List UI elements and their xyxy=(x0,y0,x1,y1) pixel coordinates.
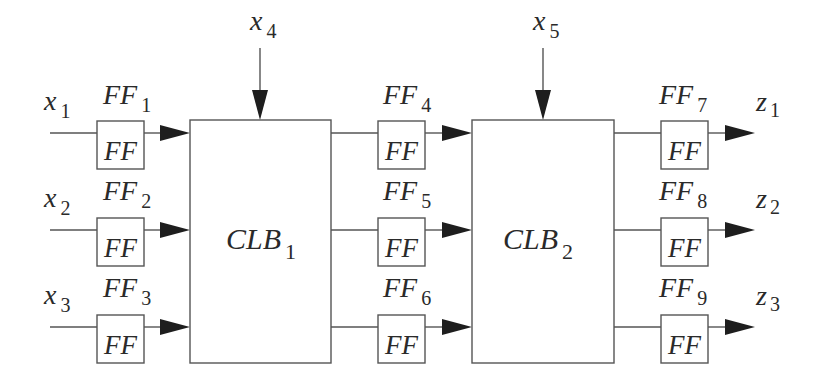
output-label-z2: z2 xyxy=(755,183,780,218)
ff-box-label: FF xyxy=(384,330,418,360)
arrow-right-icon xyxy=(442,222,472,238)
ff-box-label: FF xyxy=(667,233,701,263)
ff-label-6: FF6 xyxy=(382,272,431,309)
input-label-x2: x2 xyxy=(43,182,70,219)
arrow-right-icon xyxy=(725,222,755,238)
ff-label-3: FF3 xyxy=(102,272,151,309)
clb-1-group: x4 CLB1 xyxy=(190,5,331,363)
output-row-1: FF7 FF z1 xyxy=(614,79,780,169)
ff-box-label: FF xyxy=(384,233,418,263)
input-label-x3: x3 xyxy=(43,279,70,316)
input-row-1: x1 FF1 FF xyxy=(43,79,190,169)
ff-label-7: FF7 xyxy=(658,79,707,116)
arrow-right-icon xyxy=(725,125,755,141)
ff-label-2: FF2 xyxy=(102,175,151,212)
mid-row-3: FF6 FF xyxy=(331,272,472,363)
arrow-right-icon xyxy=(160,125,190,141)
ff-label-1: FF1 xyxy=(102,79,151,116)
ff-label-8: FF8 xyxy=(658,175,707,212)
side-input-label-x5: x5 xyxy=(532,5,559,42)
ff-box-label: FF xyxy=(103,330,137,360)
input-label-x1: x1 xyxy=(43,85,70,122)
arrow-right-icon xyxy=(442,319,472,335)
ff-box-label: FF xyxy=(667,136,701,166)
output-label-z3: z3 xyxy=(755,280,780,315)
output-row-2: FF8 FF z2 xyxy=(614,175,780,266)
arrow-down-icon xyxy=(535,90,551,120)
arrow-down-icon xyxy=(252,90,268,120)
output-row-3: FF9 FF z3 xyxy=(614,272,780,363)
input-row-3: x3 FF3 FF xyxy=(43,272,190,363)
side-input-label-x4: x4 xyxy=(249,5,276,42)
arrow-right-icon xyxy=(725,319,755,335)
output-label-z1: z1 xyxy=(755,86,780,121)
mid-row-1: FF4 FF xyxy=(331,79,472,169)
mid-row-2: FF5 FF xyxy=(331,175,472,266)
ff-box-label: FF xyxy=(103,136,137,166)
ff-label-5: FF5 xyxy=(382,175,431,212)
ff-label-9: FF9 xyxy=(658,272,707,309)
ff-box-label: FF xyxy=(667,330,701,360)
ff-box-label: FF xyxy=(103,233,137,263)
ff-label-4: FF4 xyxy=(382,79,431,116)
ff-box-label: FF xyxy=(384,136,418,166)
arrow-right-icon xyxy=(160,222,190,238)
input-row-2: x2 FF2 FF xyxy=(43,175,190,266)
clb-2-group: x5 CLB2 xyxy=(472,5,614,363)
arrow-right-icon xyxy=(160,319,190,335)
arrow-right-icon xyxy=(442,125,472,141)
pipeline-diagram: x1 FF1 FF x2 FF2 FF x3 FF3 FF x4 CLB1 xyxy=(0,0,823,392)
